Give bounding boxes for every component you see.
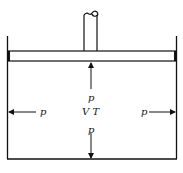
pressure-label-top: p: [88, 93, 94, 103]
piston-cylinder-diagram: [0, 0, 183, 173]
pressure-label-bottom: p: [88, 125, 94, 135]
piston-rod: [84, 11, 98, 51]
pressure-label-right: p: [141, 107, 147, 117]
state-label: V T: [82, 107, 99, 117]
piston: [8, 51, 176, 61]
pressure-label-left: p: [40, 107, 46, 117]
